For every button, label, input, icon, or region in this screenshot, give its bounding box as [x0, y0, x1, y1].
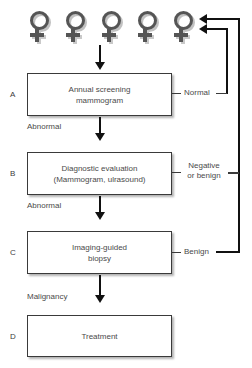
edge-label-malignancy-c-to-d: Malignancy	[27, 292, 67, 302]
box-b-label: Diagnostic evaluation (Mammogram, ulraso…	[47, 163, 151, 185]
female-symbol-icon-5	[171, 11, 197, 45]
edge-label-benign: Benign	[184, 247, 209, 257]
return-arrow-outer-head	[199, 14, 207, 24]
return-line-inner-vertical	[226, 28, 228, 94]
panel-letter-d: D	[10, 332, 16, 342]
box-diagnostic-evaluation[interactable]: Diagnostic evaluation (Mammogram, ulraso…	[27, 152, 172, 195]
female-symbol-icon-1	[27, 11, 53, 45]
flowchart-canvas: A Annual screening mammogram Normal Abno…	[0, 0, 252, 368]
box-a-label: Annual screening mammogram	[63, 84, 137, 106]
female-symbol-crossbar	[30, 33, 44, 37]
female-symbol-icon-4	[135, 11, 161, 45]
female-symbol-circle	[138, 11, 157, 30]
box-imaging-guided-biopsy[interactable]: Imaging-guided biopsy	[27, 231, 172, 274]
edge-c-to-d-line	[99, 275, 101, 297]
female-symbol-crossbar	[66, 33, 80, 37]
return-arrow-inner-head	[199, 24, 207, 34]
branch-benign-stub-left	[172, 252, 181, 253]
female-symbol-crossbar	[102, 33, 116, 37]
female-symbol-icon-2	[63, 11, 89, 45]
female-symbol-circle	[174, 11, 193, 30]
edge-a-to-b-arrow	[95, 133, 105, 141]
edge-c-to-d-arrow	[95, 295, 105, 303]
box-treatment[interactable]: Treatment	[27, 315, 172, 357]
female-symbol-crossbar	[174, 33, 188, 37]
edge-label-normal: Normal	[184, 88, 210, 98]
return-line-outer-horizontal	[207, 18, 240, 20]
box-d-label: Treatment	[75, 331, 123, 342]
female-symbol-crossbar	[138, 33, 152, 37]
branch-normal-stub-left	[172, 93, 181, 94]
branch-benign-stub-right	[216, 251, 240, 253]
female-symbol-icon-3	[99, 11, 125, 45]
branch-normal-stub-right	[216, 93, 227, 94]
return-line-inner-horizontal	[207, 28, 228, 30]
edge-label-abnormal-b-to-c: Abnormal	[27, 201, 61, 211]
female-symbol-circle	[102, 11, 121, 30]
edge-label-abnormal-a-to-b: Abnormal	[27, 122, 61, 132]
box-annual-screening-mammogram[interactable]: Annual screening mammogram	[27, 73, 172, 116]
branch-negative-stub-right	[228, 172, 239, 174]
female-symbol-circle	[66, 11, 85, 30]
panel-letter-a: A	[10, 90, 15, 100]
edge-cohort-to-a-arrow	[95, 62, 105, 70]
edge-b-to-c-arrow	[95, 212, 105, 220]
female-symbol-circle	[30, 11, 49, 30]
panel-letter-b: B	[10, 169, 15, 179]
box-c-label: Imaging-guided biopsy	[66, 242, 133, 264]
return-line-outer-vertical	[238, 18, 240, 253]
panel-letter-c: C	[10, 248, 16, 258]
branch-negative-stub-left	[172, 172, 181, 173]
edge-label-negative-or-benign: Negative or benign	[182, 161, 226, 181]
